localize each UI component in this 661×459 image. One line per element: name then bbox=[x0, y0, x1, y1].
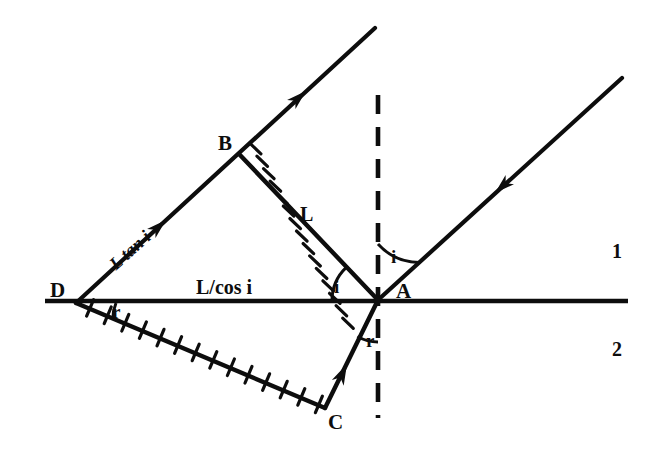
diagram-canvas: A B C D i i r r L L/cos i L tan i 1 2 bbox=[0, 0, 661, 459]
medium-label-lower: 2 bbox=[612, 339, 622, 359]
length-label-wavefront-l: L bbox=[300, 204, 313, 224]
point-label-D: D bbox=[50, 280, 65, 301]
medium-label-upper: 1 bbox=[612, 241, 622, 261]
refraction-diagram-svg bbox=[0, 0, 661, 459]
length-label-interface-l-over-cos-i: L/cos i bbox=[196, 277, 252, 297]
point-label-B: B bbox=[218, 133, 232, 154]
angle-label-incidence-left: i bbox=[334, 277, 339, 296]
angle-label-refraction-at-a: r bbox=[366, 331, 374, 350]
arrowhead-refracted bbox=[332, 361, 353, 386]
refracted-ray-AC bbox=[325, 300, 378, 408]
angle-label-refraction-at-d: r bbox=[112, 302, 120, 321]
angle-label-incidence-right: i bbox=[391, 247, 396, 266]
point-label-C: C bbox=[328, 412, 343, 433]
angle-arc-incidence-right bbox=[378, 244, 420, 263]
incident-ray-right bbox=[378, 78, 622, 300]
point-label-A: A bbox=[396, 281, 411, 302]
